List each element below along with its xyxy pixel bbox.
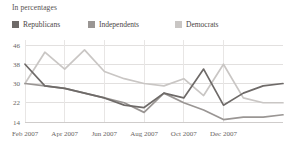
- plot-area: 1422303846 Feb 2007Apr 2007Jun 2007Aug 2…: [0, 36, 289, 150]
- legend-swatch-independents: [88, 21, 95, 28]
- chart-subtitle: In percentages: [12, 3, 57, 12]
- x-tick-label: Dec 2007: [210, 130, 238, 138]
- legend-item-republicans: Republicans: [12, 18, 60, 30]
- legend-swatch-republicans: [12, 21, 19, 28]
- x-tick-label: Jun 2007: [92, 130, 118, 138]
- legend-swatch-democrats: [175, 21, 182, 28]
- series-line-republicans: [25, 64, 283, 107]
- chart-legend: Republicans Independents Democrats: [12, 18, 277, 30]
- line-chart-svg: 1422303846 Feb 2007Apr 2007Jun 2007Aug 2…: [0, 36, 289, 150]
- chart-container: In percentages Republicans Independents …: [0, 0, 289, 150]
- x-gridlines: [25, 40, 223, 122]
- x-tick-label: Apr 2007: [51, 130, 78, 138]
- y-tick-label: 22: [13, 99, 21, 107]
- y-tick-label: 46: [13, 42, 21, 50]
- y-gridlines: [25, 45, 283, 122]
- legend-label-independents: Independents: [99, 20, 139, 29]
- y-tick-label: 38: [13, 61, 21, 69]
- legend-item-democrats: Democrats: [175, 18, 219, 30]
- x-tick-label: Feb 2007: [12, 130, 39, 138]
- legend-label-democrats: Democrats: [186, 20, 219, 29]
- y-tick-label: 14: [13, 119, 21, 127]
- x-axis-labels: Feb 2007Apr 2007Jun 2007Aug 2007Oct 2007…: [12, 130, 238, 138]
- x-tick-label: Aug 2007: [130, 130, 158, 138]
- series-line-democrats: [25, 50, 283, 103]
- x-tick-label: Oct 2007: [171, 130, 197, 138]
- legend-label-republicans: Republicans: [23, 20, 60, 29]
- y-tick-label: 30: [13, 80, 21, 88]
- y-axis-labels: 1422303846: [13, 42, 21, 127]
- series-lines: [25, 50, 283, 120]
- legend-item-independents: Independents: [88, 18, 139, 30]
